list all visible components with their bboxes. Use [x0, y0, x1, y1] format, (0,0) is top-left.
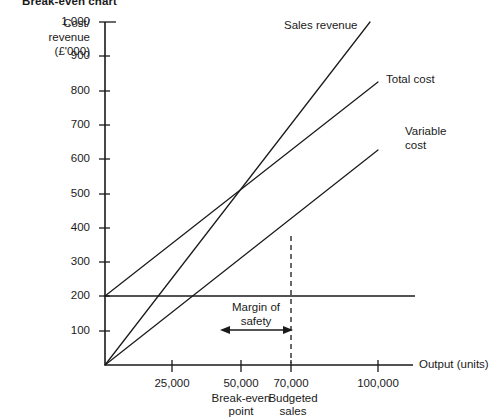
y-tick-label-100: 100: [44, 324, 90, 336]
total-cost-label: Total cost: [386, 72, 435, 86]
break-even-chart-page: Break-even chart: [0, 0, 489, 418]
margin-of-safety-label-line-1: Margin of: [211, 300, 301, 314]
chart-plot-area: [0, 0, 489, 418]
variable-cost-label-line-1: Variable: [405, 124, 446, 138]
x-tick-label-100000: 100,000: [343, 377, 413, 389]
y-tick-label-200: 200: [44, 289, 90, 301]
total-cost-line: [105, 82, 378, 296]
y-tick-label-500: 500: [44, 187, 90, 199]
sales-revenue-label: Sales revenue: [284, 18, 358, 32]
y-axis-title-line-2: revenue: [14, 30, 90, 44]
y-tick-label-800: 800: [44, 84, 90, 96]
x-axis-title: Output (units): [419, 358, 489, 371]
budgeted-sales-label: Budgeted sales: [255, 392, 331, 418]
margin-of-safety-label: Margin of safety: [211, 300, 301, 328]
y-tick-label-600: 600: [44, 152, 90, 164]
budgeted-sales-label-line-1: Budgeted: [255, 392, 331, 405]
y-tick-label-700: 700: [44, 118, 90, 130]
variable-cost-line: [105, 150, 378, 365]
budgeted-sales-label-line-2: sales: [255, 405, 331, 418]
y-tick-label-1000: 1,000: [44, 15, 90, 27]
x-tick-label-70000: 70,000: [256, 377, 326, 389]
margin-of-safety-label-line-2: safety: [211, 314, 301, 328]
variable-cost-label: Variable cost: [405, 124, 446, 152]
y-tick-label-400: 400: [44, 221, 90, 233]
y-tick-label-900: 900: [44, 49, 90, 61]
y-tick-label-300: 300: [44, 255, 90, 267]
x-tick-label-25000: 25,000: [137, 377, 207, 389]
variable-cost-label-line-2: cost: [405, 138, 446, 152]
